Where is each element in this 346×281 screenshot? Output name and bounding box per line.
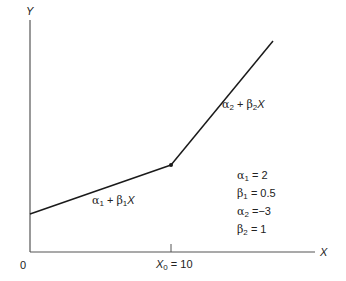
- origin-label: 0: [20, 259, 26, 271]
- param-alpha-2: α2 =−3: [237, 204, 276, 222]
- breakpoint-dot: [169, 163, 173, 167]
- segment-1-label: α1 + β1X: [92, 194, 135, 208]
- y-axis-label: Y: [26, 5, 33, 17]
- param-beta-2: β2 = 1: [237, 222, 276, 240]
- parameter-list: α1 = 2 β1 = 0.5 α2 =−3 β2 = 1: [237, 168, 276, 240]
- x-axis-label: X: [320, 246, 327, 258]
- breakpoint-label: X0 = 10: [156, 258, 193, 272]
- segment-2-label: α2 + β2X: [222, 98, 265, 112]
- param-alpha-1: α1 = 2: [237, 168, 276, 186]
- param-beta-1: β1 = 0.5: [237, 186, 276, 204]
- diagram-canvas: [0, 0, 346, 281]
